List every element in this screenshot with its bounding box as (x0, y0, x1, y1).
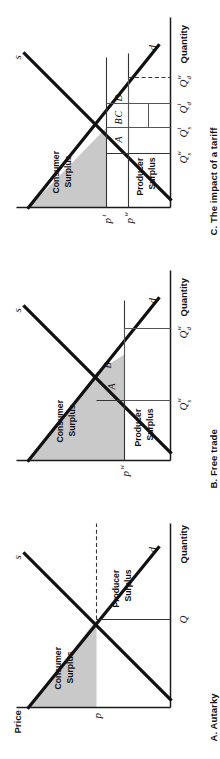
quantity-label-qdt: Q (176, 105, 188, 113)
consumer-surplus-label-line1: Consumer (52, 646, 62, 689)
producer-surplus-label-line1: Producer (110, 569, 120, 607)
quantity-label-qdw-sub: d (184, 75, 192, 79)
quantity-label-qdt-sub: d (184, 101, 192, 105)
region-label-d: D (112, 93, 123, 102)
quantity-label-qdt-sup: t (174, 102, 182, 105)
region-label-b: B (101, 362, 112, 368)
quantity-label-qdw-sup: w (174, 325, 182, 330)
region-label-c: C (112, 110, 123, 117)
panel-tariff: Quantity s d p t p w Q s w Q s t Q d (0, 0, 220, 253)
price-label-pw: p (118, 470, 130, 477)
panel-free-trade: Quantity s d p w Q s w Q d w A B Consume… (0, 253, 220, 506)
chart-autarky-labels: Price Quantity s d p Q Consumer Surplus … (0, 506, 196, 759)
figure-rotated-container: Price Quantity s d p Q Consumer Surplus … (0, 0, 220, 759)
panel-caption-autarky: A. Autarky (207, 693, 218, 741)
producer-surplus-label-line2: Surplus (144, 408, 154, 440)
demand-curve-label: d (145, 546, 157, 552)
quantity-label-qsw-sub: s (184, 399, 192, 402)
quantity-label-qsw-sup: w (174, 150, 182, 155)
quantity-label-qsw: Q (176, 402, 188, 410)
price-label-pw-sup: w (117, 464, 125, 469)
producer-surplus-label-line2: Surplus (146, 157, 156, 189)
supply-curve-label: s (10, 555, 22, 559)
quantity-label-qst-sup: t (174, 126, 182, 129)
chart-free-trade-labels: Quantity s d p w Q s w Q d w A B Consume… (0, 253, 196, 506)
producer-surplus-label-line1: Producer (134, 157, 144, 195)
consumer-surplus-label-line2: Surplus (66, 404, 76, 436)
producer-surplus-label-line1: Producer (132, 408, 142, 446)
quantity-label-qst: Q (176, 129, 188, 137)
quantity-label-qst-sub: s (184, 126, 192, 129)
price-axis-label: Price (11, 710, 22, 733)
demand-curve-label: d (145, 44, 157, 50)
quantity-axis-label: Quantity (177, 524, 188, 563)
quantity-label-qdw: Q (176, 330, 188, 338)
quantity-label-qsw: Q (176, 155, 188, 163)
panel-caption-free-trade: B. Free trade (207, 429, 218, 488)
quantity-label-qdw: Q (176, 79, 188, 87)
supply-curve-label: s (10, 308, 22, 312)
producer-surplus-label-line2: Surplus (122, 569, 132, 601)
panel-caption-tariff: C. The impact of a tariff (207, 127, 218, 235)
supply-curve-label: s (10, 55, 22, 59)
quantity-label-q: Q (176, 615, 188, 623)
consumer-surplus-label-line2: Surplus (62, 155, 72, 187)
price-label-pw: p (122, 217, 134, 224)
price-label-pt: p (100, 217, 112, 224)
quantity-label-qsw-sup: w (174, 397, 182, 402)
demand-curve-label: d (145, 297, 157, 303)
price-label-pt-sup: t (99, 213, 107, 216)
quantity-axis-label: Quantity (177, 24, 188, 63)
region-label-a: A (112, 135, 123, 143)
quantity-axis-label: Quantity (177, 277, 188, 316)
quantity-label-qsw-sub: s (184, 152, 192, 155)
price-label-pw-sup: w (121, 211, 129, 216)
price-label-p: p (90, 712, 102, 719)
consumer-surplus-label-line1: Consumer (54, 399, 64, 442)
region-label-a: A (105, 382, 116, 390)
consumer-surplus-label-line1: Consumer (50, 150, 60, 193)
figure-frame: Price Quantity s d p Q Consumer Surplus … (0, 0, 220, 759)
quantity-label-qdw-sup: w (174, 74, 182, 79)
quantity-label-qdw-sub: d (184, 326, 192, 330)
consumer-surplus-label-line2: Surplus (64, 651, 74, 683)
region-label-b: B (112, 118, 123, 124)
panel-autarky: Price Quantity s d p Q Consumer Surplus … (0, 506, 220, 759)
chart-tariff-labels: Quantity s d p t p w Q s w Q s t Q d (0, 0, 196, 253)
